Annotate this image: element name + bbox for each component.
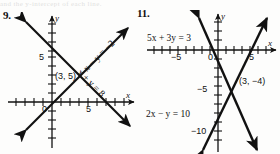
coordinate-plane-9 — [6, 12, 136, 152]
y-tick-label-neg10: −10 — [191, 127, 206, 136]
x-tick-label-0: 0 — [42, 105, 47, 114]
y-axis-label-11: y — [221, 12, 225, 21]
intersection-label-11: (3, −4) — [239, 77, 265, 86]
worksheet-page: and the y-intercept of each line. 9. — [0, 0, 280, 154]
equation-label-5x-3y: 5x + 3y = 3 — [147, 34, 191, 44]
equation-label-2x-y: 2x − y = 10 — [146, 110, 190, 120]
x-tick-label-5: 5 — [249, 53, 254, 62]
x-tick-label-neg5: −5 — [171, 53, 181, 62]
x-tick-label-5: 5 — [86, 105, 91, 114]
y-axis-label-9: y — [55, 14, 59, 23]
graph-problem-9: y x 0 5 5 (3, 5) x − y = −2 x + y = 8 — [6, 12, 136, 152]
x-axis-label-11: x — [268, 39, 272, 48]
cropped-top-text: and the y-intercept of each line. — [0, 0, 280, 7]
graph-problem-11: y x −5 0 5 −5 −10 (3, −4) 5x + 3y = 3 2x… — [145, 10, 280, 154]
intersection-label-9: (3, 5) — [55, 72, 76, 81]
x-axis-label-9: x — [126, 91, 130, 100]
y-tick-label-5: 5 — [39, 53, 44, 62]
y-tick-label-neg5: −5 — [197, 85, 207, 94]
x-tick-label-0: 0 — [208, 53, 213, 62]
